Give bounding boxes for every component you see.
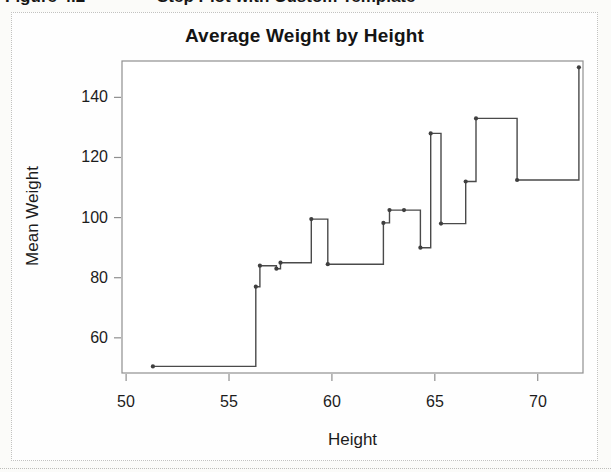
data-point-marker <box>309 217 313 221</box>
x-axis-tick-label: 70 <box>516 393 560 411</box>
x-axis-tick-label: 50 <box>104 393 148 411</box>
scanned-figure-page: Figure 4.2 Step Plot with Custom Templat… <box>0 0 611 472</box>
data-point-marker <box>474 116 478 120</box>
data-point-marker <box>278 261 282 265</box>
x-axis-tick-label: 65 <box>413 393 457 411</box>
x-axis-tick-label: 60 <box>310 393 354 411</box>
data-point-marker <box>254 285 258 289</box>
y-axis-tick-label: 120 <box>58 148 108 166</box>
data-point-marker <box>326 262 330 266</box>
data-point-marker <box>402 208 406 212</box>
data-point-marker <box>387 208 391 212</box>
data-point-marker <box>418 246 422 250</box>
y-axis-tick-label: 140 <box>58 88 108 106</box>
x-axis-tick-label: 55 <box>207 393 251 411</box>
data-point-marker <box>258 264 262 268</box>
page-bottom-rule <box>0 468 611 469</box>
data-point-marker <box>439 222 443 226</box>
data-point-marker <box>577 65 581 69</box>
data-point-marker <box>151 364 155 368</box>
y-axis-tick-label: 60 <box>58 329 108 347</box>
plot-frame <box>122 61 583 373</box>
y-axis-tick-label: 100 <box>58 209 108 227</box>
x-axis-label: Height <box>122 430 583 450</box>
data-point-marker <box>274 267 278 271</box>
data-point-marker <box>429 131 433 135</box>
data-point-marker <box>515 178 519 182</box>
y-axis-tick-label: 80 <box>58 269 108 287</box>
data-point-marker <box>464 179 468 183</box>
data-point-marker <box>381 221 385 225</box>
